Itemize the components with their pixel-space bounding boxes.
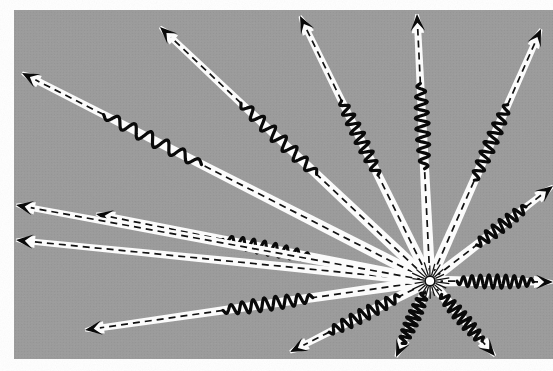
figure-canvas bbox=[0, 0, 553, 371]
source-core bbox=[425, 276, 435, 286]
radiation-figure bbox=[0, 0, 553, 371]
